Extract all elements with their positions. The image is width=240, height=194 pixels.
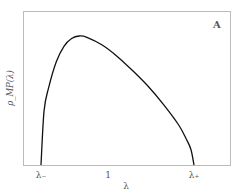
panel-label: A [212, 19, 221, 30]
plot-frame [24, 12, 231, 166]
mp-density-curve [41, 36, 194, 165]
chart: A λ₋ 1 λ₊ λ ρ_MP(λ) [0, 0, 240, 194]
x-tick-lambda-plus: λ₊ [189, 170, 200, 180]
x-axis-label: λ [123, 181, 129, 191]
y-axis-label: ρ_MP(λ) [5, 70, 16, 107]
x-tick-lambda-minus: λ₋ [36, 170, 47, 180]
x-tick-one: 1 [105, 170, 111, 180]
